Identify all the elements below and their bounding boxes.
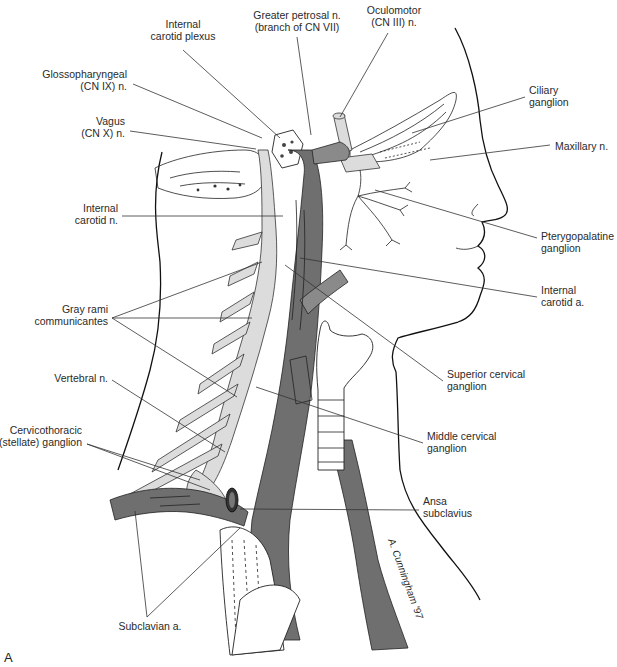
orbit-region	[333, 92, 456, 161]
label-line: communicantes	[34, 315, 108, 327]
label-line: Oculomotor	[367, 4, 422, 16]
label-ciliary-ganglion: Ciliaryganglion	[529, 84, 569, 108]
label-line: carotid a.	[541, 296, 584, 308]
label-line: Ansa	[423, 495, 447, 507]
label-line: ganglion	[529, 96, 569, 108]
leader-line-vagus-n	[130, 131, 256, 149]
label-internal-carotid-a: Internalcarotid a.	[541, 284, 584, 308]
panel-label: A	[4, 650, 13, 665]
label-line: subclavius	[423, 507, 472, 519]
label-glossopharyngeal-n: Glossopharyngeal(CN IX) n.	[42, 68, 127, 92]
label-line: Glossopharyngeal	[42, 68, 127, 80]
label-subclavian-a: Subclavian a.	[118, 620, 181, 632]
label-oculomotor-n: Oculomotor(CN III) n.	[367, 4, 422, 28]
label-line: Vertebral n.	[54, 372, 108, 384]
label-middle-cervical-ganglion: Middle cervicalganglion	[427, 430, 496, 454]
label-pterygopalatine-ganglion: Pterygopalatineganglion	[541, 230, 614, 254]
label-line: Gray rami	[62, 303, 108, 315]
label-line: Cervicothoracic	[10, 424, 82, 436]
label-line: Internal	[541, 284, 576, 296]
label-line: carotid plexus	[151, 30, 216, 42]
label-line: Ciliary	[529, 84, 559, 96]
label-cervicothoracic-ganglion: Cervicothoracic(stellate) ganglion	[0, 424, 82, 448]
label-internal-carotid-plexus: Internalcarotid plexus	[151, 18, 216, 42]
label-gray-rami-communicantes: Gray ramicommunicantes	[34, 303, 108, 327]
label-vertebral-n: Vertebral n.	[54, 372, 108, 384]
label-superior-cervical-ganglion: Superior cervicalganglion	[447, 368, 525, 392]
label-line: ganglion	[427, 442, 467, 454]
label-line: (CN III) n.	[371, 16, 417, 28]
leader-line-ciliary-ganglion	[412, 97, 525, 133]
label-line: Pterygopalatine	[541, 230, 614, 242]
label-ansa-subclavius: Ansasubclavius	[423, 495, 472, 519]
label-line: Subclavian a.	[118, 620, 181, 632]
label-line: (CN IX) n.	[80, 80, 127, 92]
leader-line-subclavian-a	[135, 511, 147, 617]
label-line: Middle cervical	[427, 430, 496, 442]
leader-line-maxillary-n	[430, 145, 550, 160]
label-line: Superior cervical	[447, 368, 525, 380]
sympathetic-trunk	[124, 150, 277, 508]
label-line: Vagus	[96, 115, 125, 127]
pterygopalatine-branches	[340, 154, 412, 250]
label-line: carotid n.	[75, 214, 118, 226]
label-line: (CN X) n.	[81, 127, 125, 139]
label-line: Maxillary n.	[555, 140, 608, 152]
label-greater-petrosal-n: Greater petrosal n.(branch of CN VII)	[253, 9, 341, 33]
anatomy-figure: Internalcarotid plexusGreater petrosal n…	[0, 0, 617, 667]
label-line: Internal	[165, 18, 200, 30]
label-line: Greater petrosal n.	[253, 9, 341, 21]
label-line: (stellate) ganglion	[0, 436, 82, 448]
label-internal-carotid-n: Internalcarotid n.	[75, 202, 118, 226]
leader-line-gray-rami-communicantes-3	[112, 318, 237, 397]
leader-line-vertebral-n	[112, 380, 225, 452]
label-line: ganglion	[541, 242, 581, 254]
label-line: (branch of CN VII)	[255, 21, 340, 33]
leader-line-pterygopalatine-ganglion	[375, 190, 537, 238]
label-line: Internal	[83, 202, 118, 214]
label-maxillary-n: Maxillary n.	[555, 140, 608, 152]
leader-line-glossopharyngeal-n	[133, 84, 262, 138]
label-vagus-n: Vagus(CN X) n.	[81, 115, 125, 139]
leader-line-greater-petrosal-n	[297, 37, 311, 135]
leader-line-oculomotor-n	[340, 33, 388, 117]
skull-base	[155, 130, 303, 199]
label-line: ganglion	[447, 380, 487, 392]
